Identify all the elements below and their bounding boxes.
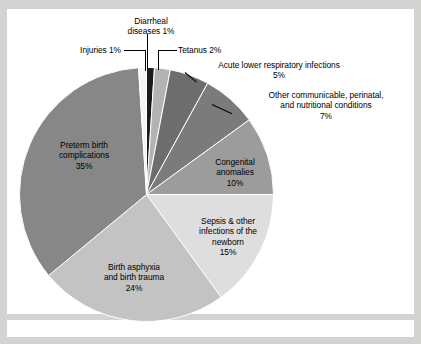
slice-label-congenital-anomalies: Congenital anomalies 10% [192,157,278,188]
leader-line-tetanus-vertical [158,50,159,70]
slice-label-injuries: Injuries 1% [46,45,121,55]
slice-label-sepsis-newborn-infections: Sepsis & other infections of the newborn… [178,216,278,258]
figure-page: Diarrheal diseases 1% Injuries 1% Tetanu… [0,0,421,344]
leader-line-injuries-horizontal [124,50,146,51]
slice-label-diarrheal-diseases: Diarrheal diseases 1% [108,16,194,37]
leader-line-tetanus-horizontal [158,50,177,51]
slice-label-tetanus: Tetanus 2% [178,45,244,55]
pie-chart: Diarrheal diseases 1% Injuries 1% Tetanu… [0,0,421,344]
slice-label-birth-asphyxia-and-trauma: Birth asphyxia and birth trauma 24% [78,262,190,293]
slice-label-preterm-birth-complications: Preterm birth complications 35% [38,140,130,171]
slice-label-other-communicable-conditions: Other communicable, perinatal, and nutri… [236,90,416,121]
leader-line-diarrheal [147,34,148,69]
leader-line-injuries-vertical [145,50,146,71]
slice-label-acute-lower-respiratory-infections: Acute lower respiratory infections 5% [204,60,354,81]
